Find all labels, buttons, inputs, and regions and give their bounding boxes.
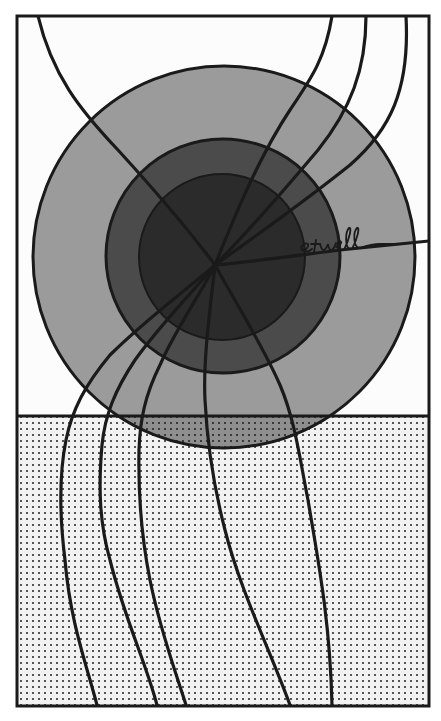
- dotted-ground: [17, 416, 429, 706]
- sun-illustration: etwell: [0, 0, 441, 721]
